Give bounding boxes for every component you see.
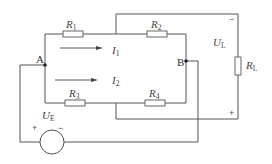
resistor-rl: RL [235, 57, 258, 75]
ue-sub: E [50, 114, 55, 123]
ul-minus-sign: − [229, 14, 234, 24]
ul-plus-sign: + [229, 108, 234, 118]
svg-text:R3: R3 [68, 87, 80, 101]
svg-text:UE: UE [42, 109, 55, 123]
node-a-label: A [36, 53, 44, 65]
voltage-source-ue: UE + − [32, 109, 64, 154]
current-arrow-i1: I1 [60, 44, 120, 58]
svg-text:R2: R2 [150, 18, 162, 32]
svg-text:R1: R1 [65, 18, 77, 32]
current-arrow-i2: I2 [55, 74, 120, 88]
svg-text:I2: I2 [111, 74, 120, 88]
ul-sub: L [221, 41, 226, 50]
r3-sub: 3 [76, 92, 80, 101]
voltage-ul: UL − + [213, 14, 234, 118]
load-bottom-wire [116, 75, 238, 119]
r1-sub: 1 [73, 23, 77, 32]
circuit-diagram: R1 R2 R3 R4 RL I1 I2 A B UL [0, 0, 272, 164]
i1-sub: 1 [116, 49, 120, 58]
svg-text:I1: I1 [111, 44, 120, 58]
r4-sub: 4 [156, 92, 160, 101]
svg-text:UL: UL [213, 36, 226, 50]
resistor-r3: R3 [65, 87, 85, 106]
resistor-r2: R2 [147, 18, 167, 37]
ue-minus-sign: − [58, 123, 63, 133]
resistor-r1: R1 [63, 18, 83, 37]
svg-text:R4: R4 [148, 87, 160, 101]
i2-sub: 2 [116, 79, 120, 88]
svg-text:RL: RL [245, 59, 258, 73]
resistor-r4: R4 [145, 87, 165, 106]
ue-plus-sign: + [32, 123, 37, 133]
source-circle-icon [40, 130, 64, 154]
rl-sub: L [253, 64, 258, 73]
node-b-label: B [177, 56, 184, 68]
r2-sub: 2 [158, 23, 162, 32]
